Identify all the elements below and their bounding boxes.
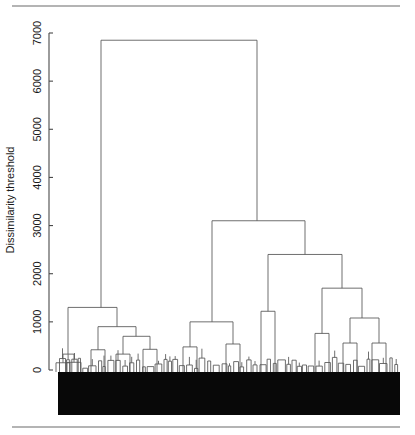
dendrogram-figure: 01000200030004000500060007000 Dissimilar… [0, 0, 415, 435]
y-axis-tick-label: 0 [31, 367, 43, 373]
y-axis-tick-label: 2000 [31, 261, 43, 285]
y-axis-title: Dissimilarity threshold [4, 147, 16, 254]
y-axis-tick-label: 5000 [31, 117, 43, 141]
y-axis-tick-label: 6000 [31, 69, 43, 93]
y-axis-tick-label: 3000 [31, 213, 43, 237]
y-axis-tick-label: 7000 [31, 21, 43, 45]
y-axis-tick-label: 1000 [31, 310, 43, 334]
y-axis-tick-label: 4000 [31, 165, 43, 189]
leaf-label-mass [58, 372, 400, 415]
